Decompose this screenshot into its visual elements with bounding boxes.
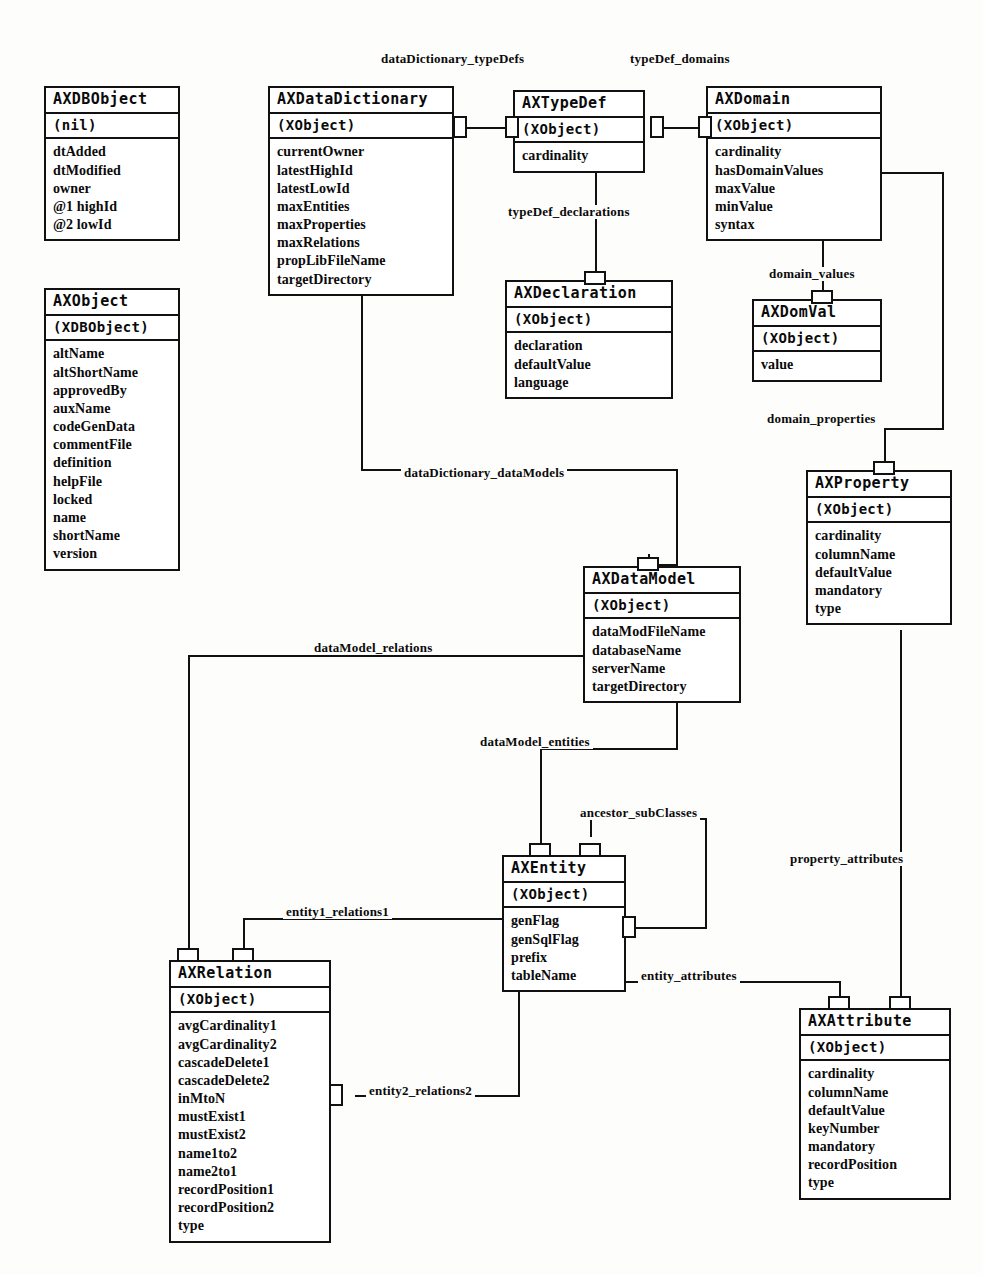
attribute: locked [53,491,171,509]
attribute: dataModFileName [592,623,732,641]
attribute: currentOwner [277,143,445,161]
attribute: cardinality [522,147,636,165]
class-box-axrelation[interactable]: AXRelation (XObject) avgCardinality1 avg… [169,960,331,1243]
port-datadictionary-right [453,116,467,138]
attribute: defaultValue [808,1102,942,1120]
attribute: genFlag [511,912,617,930]
port-attribute-top-right [889,996,911,1010]
attribute: genSqlFlag [511,931,617,949]
attribute: defaultValue [815,564,943,582]
class-attrs-axattribute: cardinality columnName defaultValue keyN… [801,1061,949,1197]
attribute: recordPosition2 [178,1199,322,1217]
attribute: cardinality [815,527,943,545]
attribute: hasDomainValues [715,162,873,180]
attribute: mustExist2 [178,1126,322,1144]
attribute: recordPosition [808,1156,942,1174]
class-super-axdatamodel: (XObject) [585,594,739,619]
class-box-axdatadictionary[interactable]: AXDataDictionary (XObject) currentOwner … [268,86,454,296]
relationship-label-dataModel-relations: dataModel_relations [311,641,435,655]
attribute: name [53,509,171,527]
class-name-axdatamodel: AXDataModel [585,568,739,594]
relationship-label-dataModel-entities: dataModel_entities [477,735,593,749]
attribute: cardinality [715,143,873,161]
attribute: definition [53,454,171,472]
class-super-axdeclaration: (XObject) [507,308,671,333]
connector-dataModel-relations-v [188,655,190,955]
class-box-axtypedef[interactable]: AXTypeDef (XObject) cardinality [513,90,645,173]
relationship-label-domain-properties: domain_properties [764,412,879,426]
class-box-axattribute[interactable]: AXAttribute (XObject) cardinality column… [799,1008,951,1200]
attribute: tableName [511,967,617,985]
attribute: columnName [815,546,943,564]
port-datamodel-top [637,557,659,571]
attribute: maxRelations [277,234,445,252]
attribute: cascadeDelete2 [178,1072,322,1090]
attribute: type [808,1174,942,1192]
connector-dataDictionary-dataModels-v2 [676,469,678,566]
connector-ancestor-subClasses-v2 [705,818,707,929]
attribute: altName [53,345,171,363]
attribute: helpFile [53,473,171,491]
relationship-label-property-attributes: property_attributes [787,852,906,866]
class-attrs-axdomain: cardinality hasDomainValues maxValue min… [708,139,880,239]
relationship-label-typeDef-domains: typeDef_domains [627,52,733,66]
class-super-axattribute: (XObject) [801,1036,949,1061]
attribute: columnName [808,1084,942,1102]
class-box-axdeclaration[interactable]: AXDeclaration (XObject) declaration defa… [505,280,673,399]
class-box-axentity[interactable]: AXEntity (XObject) genFlag genSqlFlag pr… [502,855,626,992]
attribute: @1 highId [53,198,171,216]
class-box-axdomain[interactable]: AXDomain (XObject) cardinality hasDomain… [706,86,882,241]
class-name-axobject: AXObject [46,290,178,316]
connector-dataDictionary-dataModels-v1 [361,268,363,470]
class-box-axdbobject[interactable]: AXDBObject (nil) dtAdded dtModified owne… [44,86,180,241]
class-attrs-axdomval: value [754,352,880,379]
class-super-axdomain: (XObject) [708,114,880,139]
attribute: databaseName [592,642,732,660]
port-entity-top-right [579,843,601,857]
attribute: dtModified [53,162,171,180]
relationship-label-dataDictionary-dataModels: dataDictionary_dataModels [401,466,567,480]
class-name-axrelation: AXRelation [171,962,329,988]
class-name-axproperty: AXProperty [808,472,950,498]
connector-dataModel-entities-v2 [540,748,542,850]
class-box-axdatamodel[interactable]: AXDataModel (XObject) dataModFileName da… [583,566,741,703]
port-domain-left [698,116,712,138]
class-box-axdomval[interactable]: AXDomVal (XObject) value [752,299,882,382]
attribute: shortName [53,527,171,545]
attribute: keyNumber [808,1120,942,1138]
class-box-axproperty[interactable]: AXProperty (XObject) cardinality columnN… [806,470,952,625]
class-name-axentity: AXEntity [504,857,624,883]
attribute: latestLowId [277,180,445,198]
class-super-axdomval: (XObject) [754,327,880,352]
attribute: avgCardinality2 [178,1036,322,1054]
relationship-label-entity2-relations2: entity2_relations2 [366,1084,475,1098]
class-attrs-axentity: genFlag genSqlFlag prefix tableName [504,908,624,990]
attribute: codeGenData [53,418,171,436]
attribute: propLibFileName [277,252,445,270]
class-box-axobject[interactable]: AXObject (XDBObject) altName altShortNam… [44,288,180,571]
class-name-axdomval: AXDomVal [754,301,880,327]
port-relation-right [329,1084,343,1106]
port-property-top [873,461,895,475]
port-attribute-top-left [828,996,850,1010]
port-entity-top [529,843,551,857]
attribute: owner [53,180,171,198]
class-attrs-axdbobject: dtAdded dtModified owner @1 highId @2 lo… [46,139,178,239]
class-attrs-axobject: altName altShortName approvedBy auxName … [46,341,178,568]
connector-ancestor-subClasses-v1 [590,818,592,837]
relationship-label-domain-values: domain_values [766,267,858,281]
connector-property-attributes-v [900,630,902,1003]
attribute: declaration [514,337,664,355]
class-super-axentity: (XObject) [504,883,624,908]
relationship-label-entity1-relations1: entity1_relations1 [283,905,392,919]
attribute: altShortName [53,364,171,382]
class-super-axdatadictionary: (XObject) [270,114,452,139]
attribute: targetDirectory [277,271,445,289]
attribute: targetDirectory [592,678,732,696]
relationship-label-entity-attributes: entity_attributes [638,969,740,983]
connector-domain-properties-h2 [884,428,944,430]
relationship-label-ancestor-subClasses: ancestor_subClasses [577,806,700,820]
attribute: inMtoN [178,1090,322,1108]
attribute: mandatory [808,1138,942,1156]
attribute: avgCardinality1 [178,1017,322,1035]
